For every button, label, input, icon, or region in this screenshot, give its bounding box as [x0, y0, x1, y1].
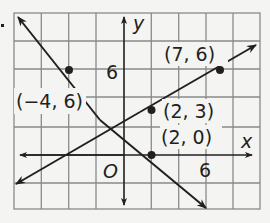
x-tick-label-6: 6 — [199, 159, 211, 181]
point-neg4-6 — [65, 66, 73, 74]
bullet-marker — [1, 24, 4, 27]
coordinate-graph: (−4, 6) (7, 6) (2, 3) (2, 0) 6 6 y x O — [0, 0, 270, 223]
point-label-7-6: (7, 6) — [164, 43, 215, 65]
point-2-3 — [148, 106, 156, 114]
origin-label: O — [103, 160, 118, 182]
point-7-6 — [216, 66, 224, 74]
point-2-0 — [148, 151, 156, 159]
point-label-neg4-6: (−4, 6) — [16, 90, 83, 112]
x-axis-label: x — [240, 130, 253, 152]
y-axis-label: y — [132, 12, 145, 34]
point-label-2-3: (2, 3) — [163, 100, 214, 122]
point-label-2-0: (2, 0) — [161, 126, 212, 148]
y-tick-label-6: 6 — [106, 61, 118, 83]
